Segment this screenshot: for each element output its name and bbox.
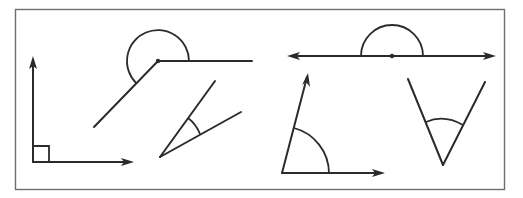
straight-angle-vertex-dot (390, 54, 394, 58)
diagram-svg (0, 0, 523, 198)
reflex-angle-vertex-dot (156, 59, 160, 63)
angle-diagram (0, 0, 523, 198)
